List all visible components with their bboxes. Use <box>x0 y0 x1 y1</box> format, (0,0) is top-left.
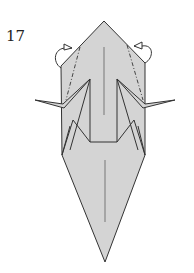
origami-diagram <box>0 0 194 273</box>
